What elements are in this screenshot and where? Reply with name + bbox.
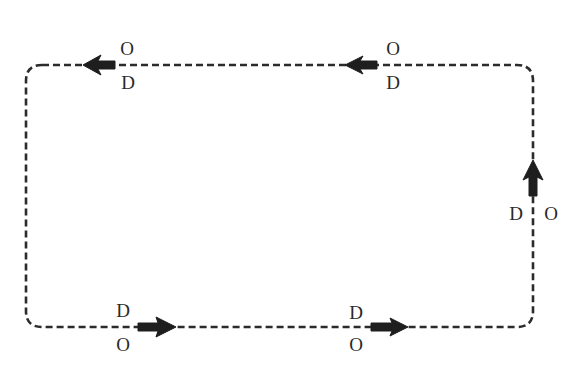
up-arrow-icon — [523, 160, 543, 196]
right-label-left: D — [509, 203, 523, 224]
top-right-label-below: D — [386, 72, 400, 93]
bottom-right-label-above: D — [349, 302, 363, 323]
circulation-diagram: O D O D D O D O D O — [0, 0, 578, 372]
bottom-left-label-above: D — [116, 300, 130, 321]
top-left-arrow-group: O D — [83, 38, 135, 93]
top-right-label-above: O — [386, 38, 400, 59]
left-arrow-icon — [83, 55, 115, 75]
top-right-arrow-group: O D — [345, 38, 400, 93]
right-arrow-icon — [138, 317, 176, 337]
left-arrow-icon — [345, 56, 377, 74]
top-left-label-above: O — [120, 38, 134, 59]
top-left-label-below: D — [121, 72, 135, 93]
right-arrow-group: D O — [509, 160, 558, 224]
bottom-right-label-below: O — [349, 334, 363, 355]
dashed-loop-path — [26, 65, 533, 327]
bottom-right-arrow-group: D O — [349, 302, 408, 355]
bottom-left-label-below: O — [116, 334, 130, 355]
right-label-right: O — [544, 203, 558, 224]
right-arrow-icon — [371, 318, 408, 336]
